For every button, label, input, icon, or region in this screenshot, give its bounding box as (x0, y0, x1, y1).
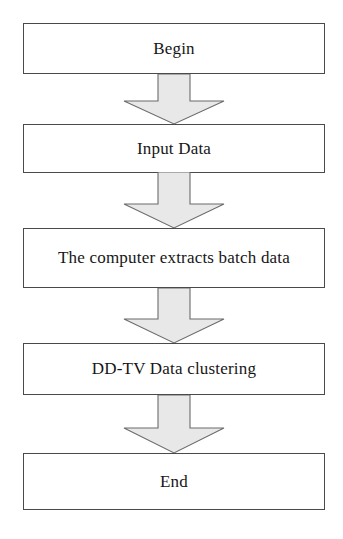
flow-arrow-down-icon (122, 172, 226, 229)
flow-node-label: Input Data (137, 140, 211, 158)
arrow-down-shape (122, 74, 226, 125)
flow-node-extract-batch-data[interactable]: The computer extracts batch data (23, 228, 325, 288)
flowchart-canvas: Begin Input Data The computer extracts b… (0, 0, 343, 539)
flow-node-begin[interactable]: Begin (23, 23, 325, 74)
arrow-down-shape (122, 288, 226, 344)
flow-node-label: End (160, 473, 188, 491)
arrow-down-shape (122, 172, 226, 229)
flow-node-input-data[interactable]: Input Data (23, 124, 325, 173)
flow-arrow-down-icon (122, 74, 226, 125)
flow-arrow-down-icon (122, 395, 226, 454)
flow-node-ddtv-clustering[interactable]: DD-TV Data clustering (23, 343, 325, 395)
flow-node-label: Begin (153, 40, 195, 58)
flow-arrow-down-icon (122, 288, 226, 344)
flow-node-label: The computer extracts batch data (58, 249, 290, 267)
arrow-down-shape (122, 395, 226, 454)
flow-node-label: DD-TV Data clustering (92, 360, 256, 378)
flow-node-end[interactable]: End (23, 453, 325, 510)
